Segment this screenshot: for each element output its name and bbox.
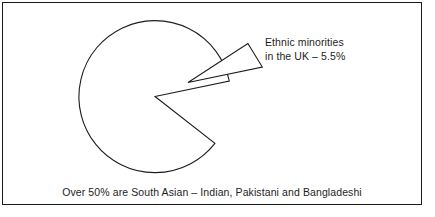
callout-line-2: in the UK – 5.5%: [265, 50, 390, 64]
figure-caption: Over 50% are South Asian – Indian, Pakis…: [2, 185, 422, 199]
pie-main-slice: [79, 21, 229, 173]
slice-callout-label: Ethnic minorities in the UK – 5.5%: [265, 36, 390, 63]
callout-line-1: Ethnic minorities: [265, 36, 390, 50]
figure-container: Ethnic minorities in the UK – 5.5% Over …: [0, 0, 435, 217]
